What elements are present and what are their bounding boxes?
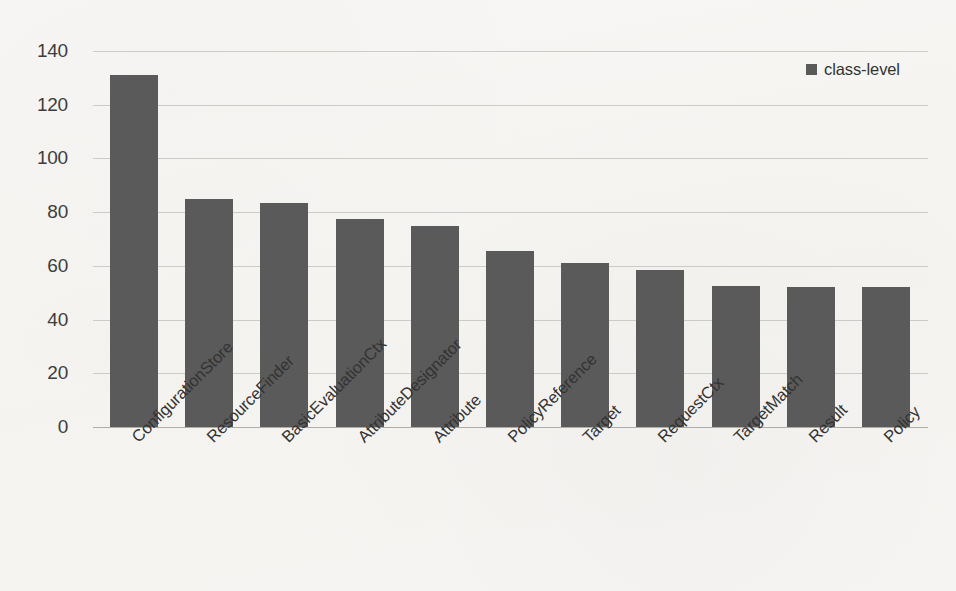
y-tick-label-60: 60 [22,255,68,277]
y-tick-label-40: 40 [22,309,68,331]
bar-AttributeDesignator [336,219,384,427]
y-tick-label-0: 0 [22,416,68,438]
bar-chart: 020406080100120140 ConfigurationStoreRes… [0,0,956,591]
y-tick-label-120: 120 [22,94,68,116]
bar-Target [561,263,609,427]
plot-area [93,51,928,427]
bar-PolicyReference [486,251,534,427]
legend-label-class-level: class-level [824,60,900,79]
bar-TargetMatch [712,286,760,427]
y-tick-label-80: 80 [22,201,68,223]
bar-Result [787,287,835,427]
gridline-100 [93,158,928,159]
bar-Attribute [411,226,459,427]
bar-ConfigurationStore [110,75,158,427]
chart-legend: class-level [806,60,900,79]
gridline-140 [93,51,928,52]
y-tick-label-20: 20 [22,362,68,384]
legend-swatch-class-level [806,64,817,75]
bar-RequestCtx [636,270,684,427]
bar-Policy [862,287,910,427]
y-tick-label-100: 100 [22,147,68,169]
y-tick-label-140: 140 [22,40,68,62]
gridline-120 [93,105,928,106]
